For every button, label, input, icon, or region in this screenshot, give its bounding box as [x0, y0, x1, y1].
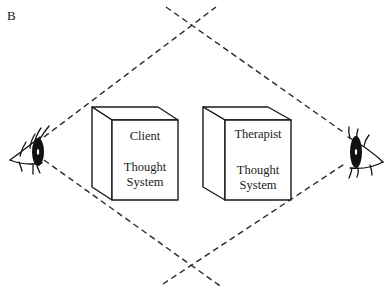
client-box-title: Client	[130, 129, 161, 143]
diagram-canvas: Client Thought System Therapist Thought …	[0, 0, 385, 293]
client-box-line2: System	[127, 175, 164, 189]
therapist-box-line2: System	[240, 178, 277, 192]
therapist-box-line1: Thought	[237, 163, 280, 177]
right-eye-icon	[348, 127, 383, 178]
therapist-box-side	[203, 107, 225, 200]
client-box-line1: Thought	[124, 160, 167, 174]
therapist-box-title: Therapist	[234, 127, 282, 141]
left-eye-icon	[10, 126, 49, 174]
client-box-side	[92, 107, 112, 200]
sight-lines	[44, 7, 346, 288]
